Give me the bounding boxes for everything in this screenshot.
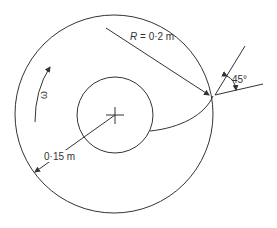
cam-profile-curve bbox=[150, 96, 213, 131]
omega-label: ω bbox=[38, 91, 49, 99]
radius-R-label: R = 0·2 m bbox=[130, 31, 174, 42]
dim-0.15-line bbox=[35, 115, 115, 172]
angle-line-lower bbox=[215, 84, 263, 95]
cam-diagram: R = 0·2 m 45° ω 0·15 m bbox=[0, 0, 277, 228]
outer-circle bbox=[15, 15, 213, 213]
angle-line-upper bbox=[215, 46, 245, 95]
dim-0.15-label: 0·15 m bbox=[44, 151, 75, 162]
angle-label: 45° bbox=[232, 74, 247, 85]
